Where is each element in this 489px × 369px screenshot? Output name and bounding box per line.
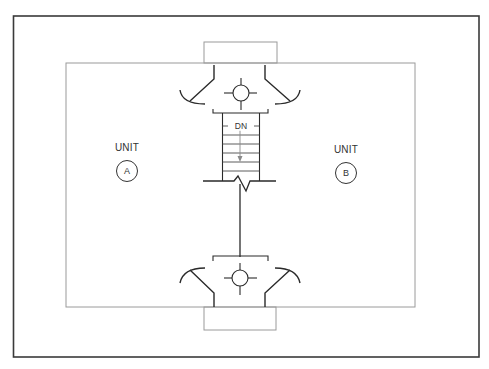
floor-plan-diagram	[0, 0, 489, 369]
stair-dn-label: DN	[234, 122, 248, 131]
stair-treads	[223, 126, 260, 171]
top-left-door-leaf	[190, 65, 214, 101]
top-right-door-leaf	[265, 65, 290, 101]
top-light-fixture-icon	[224, 78, 257, 110]
top-landing-box	[204, 42, 277, 63]
top-right-door-swing	[275, 90, 300, 104]
top-entry-doors	[180, 65, 300, 104]
bottom-right-door-leaf	[265, 270, 290, 307]
unit-b-tag: B	[335, 162, 357, 184]
top-left-door-swing	[180, 90, 205, 104]
unit-a-label: UNIT	[115, 142, 139, 153]
bottom-left-door-leaf	[190, 270, 214, 307]
outer-border	[14, 16, 480, 357]
unit-a-tag: A	[116, 160, 138, 182]
bottom-landing-box	[204, 307, 276, 330]
unit-b-tag-text: B	[343, 168, 349, 178]
bottom-light-fixture-icon	[224, 263, 257, 295]
unit-a-tag-text: A	[124, 166, 130, 176]
unit-b-label: UNIT	[334, 144, 358, 155]
